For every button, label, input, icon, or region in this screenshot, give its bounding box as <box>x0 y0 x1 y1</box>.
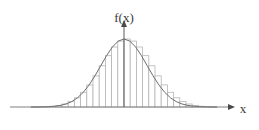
histogram-bar <box>161 85 167 107</box>
distribution-chart: f(x) x <box>0 0 259 130</box>
figure-container: f(x) x <box>0 0 259 130</box>
arrow-right-icon <box>228 104 235 110</box>
histogram-bar <box>105 56 111 107</box>
histogram-bar <box>124 39 130 107</box>
x-axis-label: x <box>240 101 247 116</box>
histogram-bar <box>118 41 124 107</box>
histogram-bar <box>112 47 118 107</box>
histogram-bar <box>99 66 105 107</box>
y-axis-label: f(x) <box>114 10 134 25</box>
histogram-bar <box>130 41 136 107</box>
histogram-bar <box>87 85 93 107</box>
histogram-bar <box>149 66 155 107</box>
histogram-bar <box>93 76 99 107</box>
